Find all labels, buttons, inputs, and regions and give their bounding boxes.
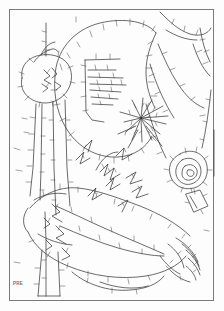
screenshot-root: illegible PRE: [0, 0, 224, 311]
watermark-tag: PRE: [13, 281, 23, 286]
artwork-canvas: [0, 0, 224, 311]
